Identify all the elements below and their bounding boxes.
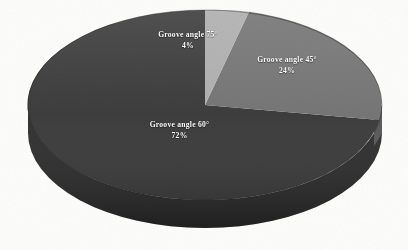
slice-label-groove-angle-60: Groove angle 60° 72% [92,120,267,141]
slice-label-60-value: 72% [92,131,267,141]
slice-label-75-text: Groove angle 75° [158,30,218,39]
slice-label-groove-angle-75: Groove angle 75° 4% [113,30,263,51]
pie-chart-figure: Groove angle 75° 4% Groove angle 45° 24%… [0,0,408,250]
slice-label-45-value: 24% [212,66,362,76]
slice-label-groove-angle-45: Groove angle 45° 24% [212,55,362,76]
slice-label-45-text: Groove angle 45° [257,55,317,64]
slice-label-60-text: Groove angle 60° [150,120,210,129]
slice-label-75-value: 4% [113,41,263,51]
